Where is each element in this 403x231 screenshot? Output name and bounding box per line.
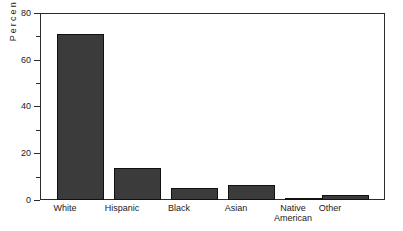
x-tick-label-asian: Asian — [205, 203, 267, 213]
y-tick-label-20: 20 — [5, 149, 31, 158]
bar-white — [57, 34, 104, 200]
y-tick-label-0: 0 — [5, 196, 31, 205]
x-tick-label-white: White — [34, 203, 96, 213]
bar-asian — [228, 185, 275, 200]
bar-black — [171, 188, 218, 200]
bar-other — [322, 195, 369, 200]
y-tick-label-60: 60 — [5, 56, 31, 65]
y-tick-label-40: 40 — [5, 102, 31, 111]
x-tick-label-hispanic: Hispanic — [91, 203, 153, 213]
x-tick-label-other: Other — [299, 203, 361, 213]
y-tick-major-0 — [34, 200, 40, 201]
bar-chart: Percent 0 20 40 60 80 White Hispanic Bla… — [0, 0, 403, 231]
x-tick-label-black: Black — [148, 203, 210, 213]
y-tick-label-80: 80 — [5, 9, 31, 18]
bar-hispanic — [114, 168, 161, 200]
bars-layer — [40, 13, 385, 200]
